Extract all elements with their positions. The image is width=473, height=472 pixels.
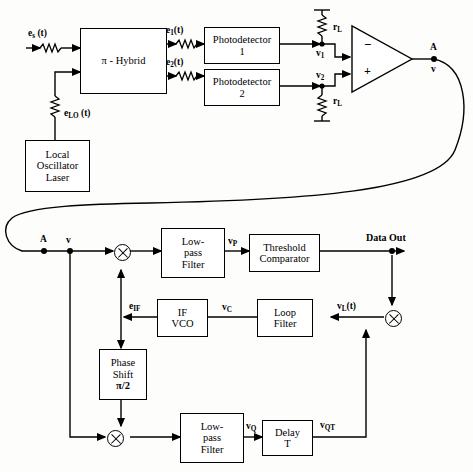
- phase-shift-line-1: Phase: [111, 357, 136, 369]
- hybrid-output-1-label: e1(t): [166, 25, 183, 36]
- vp-sub: P: [233, 240, 237, 248]
- node-v1-dot: [319, 41, 324, 46]
- node-a-dot: [41, 248, 47, 254]
- load-resistor-bottom-label: rL: [333, 96, 342, 107]
- data-out-label: Data Out: [366, 233, 406, 243]
- vl-sub: L: [342, 305, 347, 313]
- local-oscillator-laser-block: Local Oscillator Laser: [25, 140, 90, 192]
- node-v-label: v: [66, 235, 71, 245]
- input-signal-label: es (t): [28, 28, 47, 39]
- vl-arg: (t): [347, 301, 357, 311]
- comparator-line-1: Threshold: [263, 242, 306, 254]
- lowpass-filter-inphase-block: Low- pass Filter: [161, 228, 225, 278]
- mixer-quadrature: [107, 430, 124, 447]
- eif-label: eIF: [129, 301, 140, 312]
- lpf-i-line-3: Filter: [182, 259, 205, 271]
- node-a-top-signal-label: v: [431, 64, 436, 74]
- loop-filter-line-1: Loop: [274, 307, 296, 319]
- photodetector-2-line-2: 2: [239, 88, 244, 100]
- delay-line-2: T: [284, 438, 290, 450]
- vqt-label: vQT: [320, 420, 335, 431]
- lpf-i-line-2: pass: [184, 247, 202, 259]
- vp-label: vP: [228, 236, 237, 247]
- hybrid-output-2-label: e2(t): [166, 57, 183, 68]
- vqt-sub: QT: [325, 424, 335, 432]
- node-v1-label: v1: [316, 48, 324, 59]
- node-v2-dot: [319, 83, 324, 88]
- hybrid-out2-arg: (t): [174, 57, 184, 67]
- amplifier-plus-input-label: +: [364, 66, 371, 76]
- photodetector-2-block: Photodetector 2: [204, 69, 280, 106]
- mixer-loop: [385, 310, 402, 327]
- node-v-dot: [67, 248, 73, 254]
- node-a-label: A: [40, 234, 47, 244]
- input-signal-sub: s: [32, 32, 35, 40]
- amplifier-minus-input-label: −: [364, 40, 371, 50]
- hybrid-out2-sub: 2: [170, 61, 174, 69]
- comparator-line-2: Comparator: [259, 253, 309, 265]
- hybrid-label: π - Hybrid: [102, 55, 146, 67]
- data-out-node-dot: [389, 248, 395, 254]
- photodetector-1-line-1: Photodetector: [213, 34, 271, 46]
- vl-label: vL(t): [337, 301, 356, 312]
- lpf-i-line-1: Low-: [182, 236, 205, 248]
- lo-line-3: Laser: [46, 172, 69, 184]
- if-vco-block: IF VCO: [157, 299, 208, 337]
- phase-shift-line-3: π/2: [116, 380, 130, 392]
- vco-line-2: VCO: [171, 318, 193, 330]
- input-signal-arg: (t): [35, 28, 47, 38]
- load-resistor-top-label: rL: [333, 22, 342, 33]
- lpf-q-line-3: Filter: [201, 444, 224, 456]
- hybrid-out1-sub: 1: [170, 29, 174, 37]
- photodetector-1-line-2: 1: [239, 46, 244, 58]
- vc-label: vC: [222, 302, 232, 313]
- eif-sub: IF: [133, 305, 140, 313]
- hybrid-block: π - Hybrid: [80, 28, 167, 94]
- mixer-inphase: [114, 244, 131, 261]
- node-v1-sub: 1: [321, 52, 325, 60]
- delay-line-1: Delay: [275, 427, 300, 439]
- vco-line-1: IF: [178, 307, 187, 319]
- delay-block: Delay T: [262, 420, 313, 456]
- photodetector-2-line-1: Photodetector: [213, 76, 271, 88]
- lowpass-filter-quadrature-block: Low- pass Filter: [180, 413, 244, 463]
- lo-signal-sub: LO: [68, 112, 78, 120]
- vq-label: vQ: [246, 421, 256, 432]
- vq-sub: Q: [251, 425, 257, 433]
- loop-filter-line-2: Filter: [274, 318, 297, 330]
- phase-shift-line-2: Shift: [113, 369, 133, 381]
- lpf-q-line-2: pass: [203, 432, 221, 444]
- hybrid-out1-arg: (t): [174, 25, 184, 35]
- loop-filter-block: Loop Filter: [257, 299, 313, 337]
- lo-signal-arg: (t): [79, 108, 91, 118]
- phase-shift-block: Phase Shift π/2: [99, 349, 147, 400]
- threshold-comparator-block: Threshold Comparator: [249, 234, 320, 272]
- rl-top-sub: L: [337, 26, 342, 34]
- block-diagram-canvas: π - Hybrid Local Oscillator Laser Photod…: [0, 0, 473, 472]
- node-v2-label: v2: [316, 70, 324, 81]
- photodetector-1-block: Photodetector 1: [204, 27, 280, 64]
- lpf-q-line-1: Low-: [201, 421, 224, 433]
- node-v2-sub: 2: [321, 74, 325, 82]
- node-a-top-dot: [431, 56, 437, 62]
- lo-line-2: Oscillator: [37, 160, 78, 172]
- rl-bottom-sub: L: [337, 100, 342, 108]
- vc-sub: C: [227, 306, 232, 314]
- lo-signal-label: eLO (t): [64, 108, 90, 119]
- node-a-top-label: A: [430, 42, 437, 52]
- lo-line-1: Local: [46, 149, 70, 161]
